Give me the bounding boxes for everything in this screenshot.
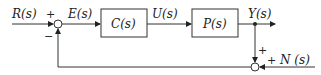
input-label: R(s) <box>11 7 37 21</box>
summing-junction-2 <box>251 63 259 71</box>
plant-label: P(s) <box>202 17 227 31</box>
sum2-plus-top: + <box>258 44 267 57</box>
controller-label: C(s) <box>111 17 136 31</box>
output-label: Y(s) <box>248 7 272 21</box>
sum1-plus-sign: + <box>46 8 55 21</box>
sum2-plus-right: + <box>267 54 276 67</box>
noise-label: N (s) <box>279 53 310 67</box>
summing-junction-1 <box>54 20 62 28</box>
error-label: E(s) <box>67 7 93 21</box>
block-diagram: R(s) + − E(s) C(s) U(s) P(s) Y(s) + + N … <box>0 0 321 75</box>
sum1-minus-sign: − <box>44 30 53 43</box>
control-label: U(s) <box>152 7 178 21</box>
